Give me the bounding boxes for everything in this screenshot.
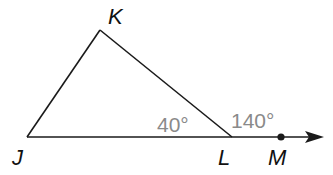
label-m: M — [268, 145, 287, 170]
interior-angle-l-label: 40° — [157, 113, 189, 136]
label-l: L — [218, 145, 230, 170]
label-j: J — [11, 145, 24, 170]
label-k: K — [108, 4, 124, 29]
exterior-angle-l-label: 140° — [231, 109, 274, 132]
segment-jk — [27, 30, 100, 137]
triangle-diagram: K J L M 40° 140° — [0, 0, 333, 175]
point-m-dot — [277, 133, 284, 140]
